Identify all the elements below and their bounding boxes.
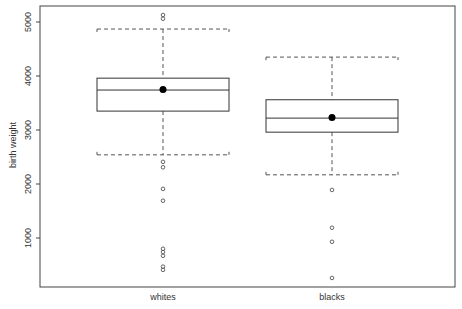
y-tick-label: 5000 — [23, 12, 33, 32]
y-tick-label: 3000 — [23, 120, 33, 140]
y-tick-label: 4000 — [23, 66, 33, 86]
outlier-point — [330, 276, 334, 280]
outlier-point — [330, 188, 334, 192]
outlier-point — [161, 160, 165, 164]
y-tick-label: 1000 — [23, 228, 33, 248]
plot-frame — [40, 6, 455, 287]
outlier-point — [161, 165, 165, 169]
outlier-point — [330, 226, 334, 230]
x-category-label: blacks — [319, 292, 345, 302]
x-category-label: whites — [149, 292, 176, 302]
box-plot: 10002000300040005000whitesblacks — [0, 0, 462, 309]
outlier-point — [161, 13, 165, 17]
outlier-point — [161, 199, 165, 203]
mean-dot — [160, 86, 167, 93]
outlier-point — [161, 17, 165, 21]
y-tick-label: 2000 — [23, 174, 33, 194]
outlier-point — [161, 254, 165, 258]
outlier-point — [330, 240, 334, 244]
mean-dot — [329, 114, 336, 121]
iqr-box — [97, 78, 229, 111]
outlier-point — [161, 187, 165, 191]
